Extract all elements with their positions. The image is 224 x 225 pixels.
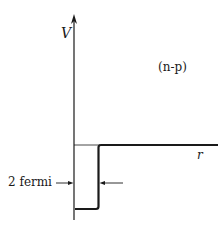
potential-well-diagram [0,0,224,225]
v-axis-label: V [61,25,71,41]
left-arrow-icon [68,181,74,185]
right-arrow-icon [100,181,106,185]
width-label: 2 fermi [8,175,52,189]
r-axis-label: r [197,148,203,162]
system-label: (n-p) [158,60,187,74]
